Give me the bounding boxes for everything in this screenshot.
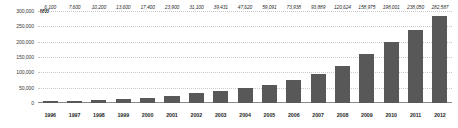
x-axis-tick-label: 2003	[209, 112, 233, 126]
bar-group: 13,600	[111, 11, 135, 103]
bar-group: 120,624	[330, 11, 354, 103]
bar[interactable]: 93,889	[311, 74, 326, 103]
bar-group: 23,900	[160, 11, 184, 103]
bar[interactable]: 7,600	[67, 101, 82, 103]
bar[interactable]: 10,200	[91, 100, 106, 103]
x-axis-tick-label: 2000	[135, 112, 159, 126]
bar-chart: 300,000250,000200,000150,000100,00050,00…	[0, 0, 458, 128]
bar-value-label: 73,938	[287, 5, 301, 10]
bar-group: 238,050	[403, 11, 427, 103]
bar-value-label: 47,620	[238, 5, 252, 10]
bar-value-label: 31,100	[189, 5, 203, 10]
x-axis-tick-label: 2006	[282, 112, 306, 126]
x-axis-tick-label: 2012	[428, 112, 452, 126]
bar-group: 198,001	[379, 11, 403, 103]
x-axis-tick-label: 1998	[87, 112, 111, 126]
bar-group: 158,975	[355, 11, 379, 103]
bar-group: 31,100	[184, 11, 208, 103]
bar-value-label: 158,975	[358, 5, 375, 10]
y-axis: 300,000250,000200,000150,000100,00050,00…	[0, 0, 36, 128]
bar-group: 6,100	[38, 11, 62, 103]
bar-series: 6,1007,60010,20013,60017,40023,90031,100…	[38, 11, 452, 103]
bar-group: 17,400	[135, 11, 159, 103]
bar[interactable]: 59,091	[262, 85, 277, 103]
bar[interactable]: 238,050	[408, 30, 423, 103]
bar-group: 59,091	[257, 11, 281, 103]
plot-area: 6,1007,60010,20013,60017,40023,90031,100…	[38, 11, 452, 103]
bar[interactable]: 158,975	[359, 54, 374, 103]
x-axis-tick-label: 2008	[330, 112, 354, 126]
bar-value-label: 10,200	[92, 5, 106, 10]
x-axis-tick-label: 2002	[184, 112, 208, 126]
bar-value-label: 93,889	[311, 5, 325, 10]
bar[interactable]: 198,001	[384, 42, 399, 103]
y-axis-tick-label: 100,000	[16, 69, 34, 75]
bar-value-label: 23,900	[165, 5, 179, 10]
x-axis-tick-label: 2007	[306, 112, 330, 126]
y-axis-tick-label: 150,000	[16, 54, 34, 60]
bar-value-label: 59,091	[262, 5, 276, 10]
bar[interactable]: 23,900	[164, 96, 179, 103]
bar-group: 47,620	[233, 11, 257, 103]
bar-group: 7,600	[62, 11, 86, 103]
y-axis-tick-label: 50,000	[19, 85, 34, 91]
bar[interactable]: 47,620	[238, 88, 253, 103]
bar[interactable]: 6,100	[43, 101, 58, 103]
x-axis-tick-label: 2011	[403, 112, 427, 126]
y-axis-tick-label: 250,000	[16, 23, 34, 29]
bar-value-label: 7,600	[69, 5, 81, 10]
bar[interactable]: 31,100	[189, 93, 204, 103]
bar-value-label: 120,624	[334, 5, 351, 10]
bar-value-label: 39,431	[214, 5, 228, 10]
bar[interactable]: 17,400	[140, 98, 155, 103]
bar[interactable]: 282,587	[432, 16, 447, 103]
x-axis-tick-label: 1996	[38, 112, 62, 126]
bar-group: 282,587	[428, 11, 452, 103]
bar-group: 39,431	[209, 11, 233, 103]
bar-group: 73,938	[282, 11, 306, 103]
bar-value-label: 198,001	[383, 5, 400, 10]
bar[interactable]: 13,600	[116, 99, 131, 103]
bar[interactable]: 73,938	[286, 80, 301, 103]
x-axis-tick-label: 1999	[111, 112, 135, 126]
x-axis-tick-label: 1997	[62, 112, 86, 126]
bar-value-label: 6,100	[44, 5, 56, 10]
y-axis-tick-label: 300,000	[16, 8, 34, 14]
x-axis-tick-label: 2005	[257, 112, 281, 126]
x-axis-tick-label: 2009	[355, 112, 379, 126]
bar-group: 93,889	[306, 11, 330, 103]
y-axis-tick-label: 200,000	[16, 39, 34, 45]
bar[interactable]: 39,431	[213, 91, 228, 103]
bar-group: 10,200	[87, 11, 111, 103]
x-axis-tick-label: 2010	[379, 112, 403, 126]
bar[interactable]: 120,624	[335, 66, 350, 103]
bar-value-label: 238,050	[407, 5, 424, 10]
y-axis-zero-label: 0	[31, 100, 34, 106]
x-axis: 1996199719981999200020012002200320042005…	[38, 112, 452, 126]
bar-value-label: 17,400	[140, 5, 154, 10]
x-axis-tick-label: 2001	[160, 112, 184, 126]
bar-value-label: 13,600	[116, 5, 130, 10]
x-axis-tick-label: 2004	[233, 112, 257, 126]
bar-value-label: 282,587	[431, 5, 448, 10]
